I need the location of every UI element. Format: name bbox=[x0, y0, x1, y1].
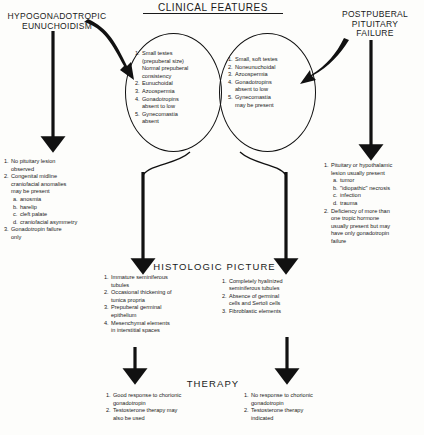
list-item-number: 3. bbox=[104, 304, 111, 312]
list-item-continuation: Normal prepuberal bbox=[135, 65, 215, 73]
list-subitem: a.tumor bbox=[324, 177, 424, 185]
list-item-text: Prepuberal germinal bbox=[111, 304, 216, 312]
list-item-continuation: also be used bbox=[106, 415, 224, 423]
right-histologic-list: 1.Completely hyalinizedseminiferous tubu… bbox=[222, 278, 327, 315]
list-item-continuation: only bbox=[4, 234, 122, 242]
list-item-continuation: cells and Sertoli cells bbox=[222, 300, 327, 307]
list-item-continuation: consistency bbox=[135, 73, 215, 81]
list-subitem-text: infection bbox=[340, 192, 424, 200]
list-item-number: 2. bbox=[244, 407, 251, 415]
list-subitem: c.cleft palate bbox=[4, 211, 122, 219]
list-item-text: Good response to chorionic bbox=[113, 392, 224, 400]
list-item-continuation: have only gonadotropin bbox=[324, 230, 424, 238]
list-item: 3.Gonadotropin failure bbox=[4, 226, 122, 234]
list-item-number: 2. bbox=[135, 80, 142, 88]
list-item-continuation: gonadotropin bbox=[244, 400, 354, 408]
list-item-continuation: may be present bbox=[4, 188, 122, 196]
page-title: CLINICAL FEATURES bbox=[143, 2, 283, 14]
list-item-text: Mesenchymal elements bbox=[111, 320, 216, 328]
list-item-number: 1. bbox=[106, 392, 113, 400]
list-item-number: 3. bbox=[135, 88, 142, 96]
list-item: 4.Mesenchymal elements bbox=[104, 320, 216, 328]
list-item-number: 2. bbox=[106, 407, 113, 415]
list-item-number: 2. bbox=[324, 208, 331, 216]
list-subitem-letter: d. bbox=[13, 219, 20, 227]
list-item-number: 2. bbox=[222, 293, 229, 300]
left-histologic-list: 1.Immature seminiferoustubules2.Occasion… bbox=[104, 274, 216, 335]
therapy-section-heading: THERAPY bbox=[173, 378, 253, 389]
right-therapy-list: 1.No response to chorionicgonadotropin2.… bbox=[244, 392, 354, 422]
list-item: 1.Good response to chorionic bbox=[106, 392, 224, 400]
list-item-text: Testosterone therapy may bbox=[113, 407, 224, 415]
list-item-continuation: (prepuberal size) bbox=[135, 58, 215, 66]
list-item: 5.Gynecomastia bbox=[228, 94, 311, 102]
list-subitem: b."idiopathic" necrosis bbox=[324, 185, 424, 193]
list-subitem-text: tumor bbox=[340, 177, 424, 185]
list-item-text: Gynecomastia bbox=[235, 94, 311, 102]
list-item: 1.Small, soft testes bbox=[228, 56, 311, 64]
right-condition-heading: POSTPUBERAL PITUITARY FAILURE bbox=[330, 10, 420, 39]
list-item-text: Azoospermia bbox=[142, 88, 215, 96]
list-item: 4.Gonadotropins bbox=[228, 79, 311, 87]
list-item-text: Occasional thickening of bbox=[111, 289, 216, 297]
list-item-number: 4. bbox=[104, 320, 111, 328]
list-item: 1.No pituitary lesion bbox=[4, 158, 122, 166]
list-item-number: 1. bbox=[324, 162, 331, 170]
list-item: 1.No response to chorionic bbox=[244, 392, 354, 400]
list-item-number: 5. bbox=[228, 94, 235, 102]
list-item: 1.Small testes bbox=[135, 50, 215, 58]
list-item-continuation: may be present bbox=[228, 102, 311, 110]
list-item-text: Gonadotropins bbox=[235, 79, 311, 87]
list-item-text: No pituitary lesion bbox=[11, 158, 122, 166]
list-item-continuation: absent bbox=[135, 118, 215, 126]
histologic-section-heading: HISTOLOGIC PICTURE bbox=[152, 261, 277, 272]
list-item-continuation: craniofacial anomalies bbox=[4, 181, 122, 189]
list-item: 3.Azoospermia bbox=[228, 71, 311, 79]
list-item-text: Gynecomastia bbox=[142, 111, 215, 119]
list-subitem: a.anosmia bbox=[4, 196, 122, 204]
list-item-text: Gonadotropins bbox=[142, 96, 215, 104]
list-subitem-letter: b. bbox=[13, 204, 20, 212]
list-subitem-letter: d. bbox=[333, 200, 340, 208]
list-item-text: Completely hyalinized bbox=[229, 278, 327, 285]
left-therapy-list: 1.Good response to chorionicgonadotropin… bbox=[106, 392, 224, 422]
right-condition-line-3: FAILURE bbox=[330, 29, 420, 39]
list-item: 2.Eunuchoidal bbox=[135, 80, 215, 88]
list-item-continuation: one tropic hormone bbox=[324, 215, 424, 223]
list-subitem-text: craniofacial asymmetry bbox=[20, 219, 122, 227]
list-subitem-letter: c. bbox=[333, 192, 340, 200]
list-subitem: c.infection bbox=[324, 192, 424, 200]
right-clinical-circle: 1.Small, soft testes2.Noneunuchoidal3.Az… bbox=[219, 33, 316, 152]
list-item-text: Fibroblastic elements bbox=[229, 308, 327, 315]
list-item-continuation: absent to low bbox=[135, 103, 215, 111]
list-item: 1.Pituitary or hypothalamic bbox=[324, 162, 424, 170]
list-subitem: b.harelip bbox=[4, 204, 122, 212]
list-item-number: 2. bbox=[104, 289, 111, 297]
list-item-continuation: tunica propria bbox=[104, 297, 216, 305]
list-item: 2.Noneunuchoidal bbox=[228, 64, 311, 72]
list-item: 2.Absence of germinal bbox=[222, 293, 327, 300]
list-item-number: 3. bbox=[4, 226, 11, 234]
list-item-continuation: gonadotropin bbox=[106, 400, 224, 408]
list-item-text: Azoospermia bbox=[235, 71, 311, 79]
list-subitem-letter: a. bbox=[13, 196, 20, 204]
list-item: 5.Gynecomastia bbox=[135, 111, 215, 119]
left-condition-heading: HYPOGONADOTROPIC EUNUCHOIDISM bbox=[2, 12, 112, 31]
list-item-number: 2. bbox=[4, 173, 11, 181]
list-item-text: Noneunuchoidal bbox=[235, 64, 311, 72]
left-circle-list: 1.Small testes(prepuberal size)Normal pr… bbox=[126, 34, 221, 126]
list-item: 3.Fibroblastic elements bbox=[222, 308, 327, 315]
left-condition-line-2: EUNUCHOIDISM bbox=[2, 22, 112, 32]
list-item-number: 4. bbox=[135, 96, 142, 104]
arrow-left-circle-to-histologic bbox=[143, 152, 190, 262]
list-item-number: 3. bbox=[228, 71, 235, 79]
list-item-continuation: absent to low bbox=[228, 86, 311, 94]
list-subitem-text: "idiopathic" necrosis bbox=[340, 185, 424, 193]
list-subitem-text: anosmia bbox=[20, 196, 122, 204]
list-item: 3.Prepuberal germinal bbox=[104, 304, 216, 312]
list-item: 2.Testosterone therapy may bbox=[106, 407, 224, 415]
list-item-text: Gonadotropin failure bbox=[11, 226, 122, 234]
list-item-continuation: failure bbox=[324, 238, 424, 246]
list-item-text: Small testes bbox=[142, 50, 215, 58]
list-item-number: 2. bbox=[228, 64, 235, 72]
